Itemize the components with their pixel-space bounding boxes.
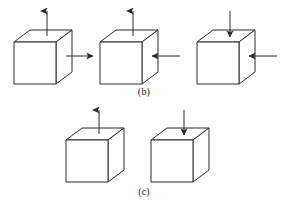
cube-4-front-face xyxy=(66,140,108,182)
cube-2-front-face xyxy=(100,42,142,84)
stress-cubes-diagram xyxy=(0,0,288,215)
cubes-layer xyxy=(14,30,255,182)
cube-4 xyxy=(66,128,124,182)
cube-1 xyxy=(14,30,72,84)
figure-container: (b) (c) xyxy=(0,0,288,215)
cube-5-front-face xyxy=(151,140,193,182)
cube-3 xyxy=(197,30,255,84)
cube-3-front-face xyxy=(197,42,239,84)
caption-row-c: (c) xyxy=(0,186,288,197)
cube-2 xyxy=(100,30,158,84)
cube-1-front-face xyxy=(14,42,56,84)
cube-5 xyxy=(151,128,209,182)
caption-row-b: (b) xyxy=(0,86,288,97)
